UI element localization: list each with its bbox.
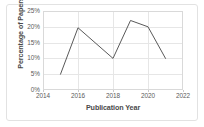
series-polyline [61,20,166,74]
y-axis-tick-label: 5% [23,71,40,77]
y-axis-tick-label: 20% [23,24,40,30]
x-axis-tick-label: 2014 [30,92,56,100]
x-axis-tick-label: 2016 [65,92,91,100]
x-axis-tick-label: 2018 [100,92,126,100]
plot-area [43,11,183,90]
x-axis-title: Publication Year [43,103,183,112]
x-axis-tick-label: 2022 [170,92,196,100]
y-axis-tick-label: 15% [23,40,40,46]
y-axis-tick-label: 25% [23,8,40,14]
x-axis-tick-labels: 20142016201820202022 [43,92,183,102]
x-axis-tick-label: 2020 [135,92,161,100]
chart-figure: Percentage of Papers 0%5%10%15%20%25% 20… [0,0,204,127]
y-axis-tick-label: 10% [23,55,40,61]
line-series [43,11,183,90]
y-axis-tick-labels: 0%5%10%15%20%25% [23,0,40,127]
